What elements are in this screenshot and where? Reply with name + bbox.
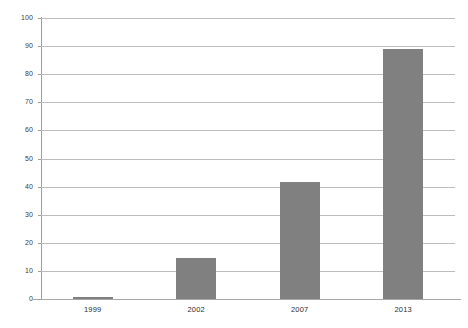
y-tick-mark: [38, 187, 41, 188]
y-tick-label: 100: [11, 14, 33, 22]
y-tick-mark: [38, 299, 41, 300]
y-tick-mark: [38, 130, 41, 131]
x-tick-label: 2002: [166, 305, 226, 314]
bar[interactable]: [280, 182, 320, 299]
y-tick-label: 60: [11, 126, 33, 134]
x-tick-label: 1999: [63, 305, 123, 314]
y-tick-mark: [38, 159, 41, 160]
y-tick-mark: [38, 215, 41, 216]
y-tick-label: 90: [11, 42, 33, 50]
y-tick-label: 50: [11, 155, 33, 163]
y-tick-mark: [38, 271, 41, 272]
bar[interactable]: [176, 258, 216, 299]
bar-chart: 10090807060504030201001999200220072013: [0, 0, 468, 328]
y-tick-mark: [38, 46, 41, 47]
y-tick-mark: [38, 102, 41, 103]
y-tick-mark: [38, 243, 41, 244]
bar[interactable]: [73, 297, 113, 299]
y-tick-label: 30: [11, 211, 33, 219]
y-tick-label: 80: [11, 70, 33, 78]
y-tick-label: 0: [11, 295, 33, 303]
plot-area: [41, 18, 455, 299]
gridline: [41, 18, 455, 19]
x-tick-label: 2013: [373, 305, 433, 314]
y-tick-label: 70: [11, 98, 33, 106]
y-tick-label: 40: [11, 183, 33, 191]
y-tick-label: 10: [11, 267, 33, 275]
y-tick-mark: [38, 18, 41, 19]
x-tick-label: 2007: [270, 305, 330, 314]
y-tick-label: 20: [11, 239, 33, 247]
y-tick-mark: [38, 74, 41, 75]
bar[interactable]: [383, 49, 423, 299]
gridline: [41, 299, 455, 300]
gridline: [41, 46, 455, 47]
